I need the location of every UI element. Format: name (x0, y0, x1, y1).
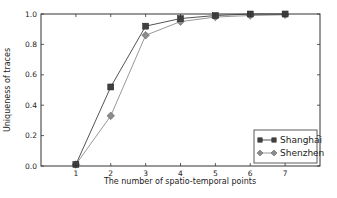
diamond-marker (142, 31, 150, 39)
x-axis-label: The number of spatio-temporal points (103, 177, 256, 186)
x-tick-label: 7 (283, 169, 288, 178)
y-tick-label: 0.2 (25, 131, 37, 140)
square-marker (258, 138, 262, 142)
diamond-marker (107, 112, 115, 120)
square-marker (272, 138, 276, 142)
legend-label: Shanghai (280, 135, 322, 145)
y-tick-label: 0.8 (25, 40, 37, 49)
square-marker (108, 84, 114, 90)
y-tick-label: 1.0 (25, 10, 37, 19)
legend-label: Shenzhen (280, 148, 324, 158)
line-chart: 12345670.00.20.40.60.81.0 The number of … (0, 0, 337, 198)
y-tick-label: 0.6 (25, 70, 37, 79)
legend: ShanghaiShenzhen (254, 130, 324, 163)
y-tick-label: 0.0 (25, 162, 37, 171)
y-tick-label: 0.4 (25, 101, 37, 110)
x-tick-label: 1 (73, 169, 78, 178)
y-axis-label: Uniqueness of traces (3, 48, 12, 132)
square-marker (143, 23, 149, 29)
